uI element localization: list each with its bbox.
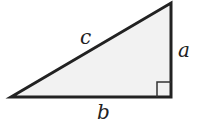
label-leg-b: b xyxy=(97,100,110,124)
label-leg-a: a xyxy=(178,38,190,62)
label-hypotenuse: c xyxy=(80,25,91,49)
triangle-shape xyxy=(11,3,171,97)
right-triangle-diagram: c a b xyxy=(0,0,198,124)
